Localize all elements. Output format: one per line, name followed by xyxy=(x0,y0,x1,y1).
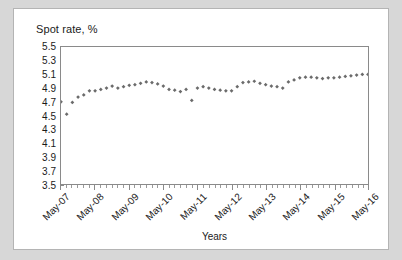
x-tick-minor xyxy=(209,185,210,188)
x-tick-label: May-11 xyxy=(178,191,209,222)
data-point-marker xyxy=(287,80,291,84)
data-point-marker xyxy=(213,88,217,92)
data-point-marker xyxy=(235,85,239,89)
x-tick-minor xyxy=(277,185,278,188)
data-point-marker xyxy=(207,86,211,90)
data-point-marker xyxy=(343,75,347,79)
data-point-marker xyxy=(167,88,171,92)
data-point-marker xyxy=(338,75,342,79)
x-tick-minor xyxy=(283,185,284,188)
x-axis-tick-labels: May-07May-08May-09May-10May-11May-12May-… xyxy=(60,191,369,231)
data-point-marker xyxy=(366,73,368,77)
data-point-marker xyxy=(321,77,325,81)
y-tick-label: 4.1 xyxy=(26,138,56,149)
x-tick-major xyxy=(368,185,369,190)
data-point-marker xyxy=(139,81,143,85)
data-point-marker xyxy=(144,80,148,84)
data-point-marker xyxy=(122,85,126,89)
x-tick-minor xyxy=(112,185,113,188)
x-tick-label: May-14 xyxy=(281,191,312,222)
y-tick-label: 5.5 xyxy=(26,41,56,52)
x-tick-minor xyxy=(312,185,313,188)
data-point-marker xyxy=(133,83,137,87)
x-tick-minor xyxy=(169,185,170,188)
x-tick-minor xyxy=(323,185,324,188)
data-point-marker xyxy=(264,83,268,87)
data-point-marker xyxy=(190,99,194,103)
y-tick-label: 3.5 xyxy=(26,180,56,191)
x-tick-minor xyxy=(243,185,244,188)
data-point-marker xyxy=(258,81,262,85)
data-point-marker xyxy=(349,74,353,78)
x-tick-label: May-10 xyxy=(143,191,174,222)
data-point-marker xyxy=(241,81,245,85)
x-tick-minor xyxy=(117,185,118,188)
x-tick-minor xyxy=(340,185,341,188)
data-point-marker xyxy=(247,80,251,84)
x-tick-label: May-07 xyxy=(40,191,71,222)
x-tick-minor xyxy=(352,185,353,188)
data-point-marker xyxy=(275,85,279,89)
data-point-marker xyxy=(105,86,109,90)
x-tick-minor xyxy=(226,185,227,188)
data-point-marker xyxy=(99,88,103,92)
x-tick-label: May-08 xyxy=(75,191,106,222)
x-tick-minor xyxy=(346,185,347,188)
data-point-marker xyxy=(156,82,160,86)
x-tick-minor xyxy=(318,185,319,188)
x-tick-label: May-09 xyxy=(109,191,140,222)
x-tick-minor xyxy=(71,185,72,188)
x-tick-minor xyxy=(146,185,147,188)
data-point-marker xyxy=(201,85,205,89)
data-point-marker xyxy=(184,88,188,92)
x-tick-minor xyxy=(363,185,364,188)
x-tick-minor xyxy=(272,185,273,188)
x-axis-title: Years xyxy=(60,231,369,242)
data-point-marker xyxy=(127,83,131,87)
data-point-marker xyxy=(61,100,63,104)
data-point-marker xyxy=(252,79,256,83)
x-tick-major xyxy=(266,185,267,190)
x-tick-major xyxy=(163,185,164,190)
data-point-marker xyxy=(224,89,228,93)
data-point-marker xyxy=(82,93,86,97)
x-tick-minor xyxy=(215,185,216,188)
x-tick-minor xyxy=(192,185,193,188)
data-point-marker xyxy=(65,112,69,116)
x-tick-major xyxy=(300,185,301,190)
x-tick-minor xyxy=(89,185,90,188)
x-tick-label: May-12 xyxy=(212,191,243,222)
x-tick-label: May-16 xyxy=(349,191,380,222)
data-point-marker xyxy=(309,75,313,79)
data-point-marker xyxy=(332,76,336,80)
data-point-marker xyxy=(304,75,308,79)
x-tick-minor xyxy=(134,185,135,188)
y-tick-label: 4.9 xyxy=(26,82,56,93)
data-point-marker xyxy=(230,89,234,93)
x-tick-label: May-15 xyxy=(315,191,346,222)
x-tick-major xyxy=(232,185,233,190)
x-tick-minor xyxy=(140,185,141,188)
x-tick-major xyxy=(94,185,95,190)
x-tick-minor xyxy=(186,185,187,188)
data-point-marker xyxy=(110,84,114,88)
y-tick-label: 5.1 xyxy=(26,68,56,79)
data-point-marker xyxy=(281,86,285,90)
data-point-marker xyxy=(298,76,302,80)
chart-title: Spot rate, % xyxy=(36,23,98,35)
data-point-marker xyxy=(116,86,120,90)
data-point-marker xyxy=(76,95,80,99)
x-tick-minor xyxy=(260,185,261,188)
x-tick-major xyxy=(335,185,336,190)
x-tick-minor xyxy=(83,185,84,188)
x-tick-minor xyxy=(66,185,67,188)
x-tick-minor xyxy=(289,185,290,188)
data-point-marker xyxy=(292,78,296,82)
x-tick-minor xyxy=(249,185,250,188)
x-tick-minor xyxy=(295,185,296,188)
x-tick-minor xyxy=(157,185,158,188)
x-tick-minor xyxy=(77,185,78,188)
data-point-marker xyxy=(355,73,359,77)
y-axis-tick-labels: 5.55.35.14.94.74.54.34.13.93.73.5 xyxy=(22,46,56,185)
x-tick-minor xyxy=(237,185,238,188)
